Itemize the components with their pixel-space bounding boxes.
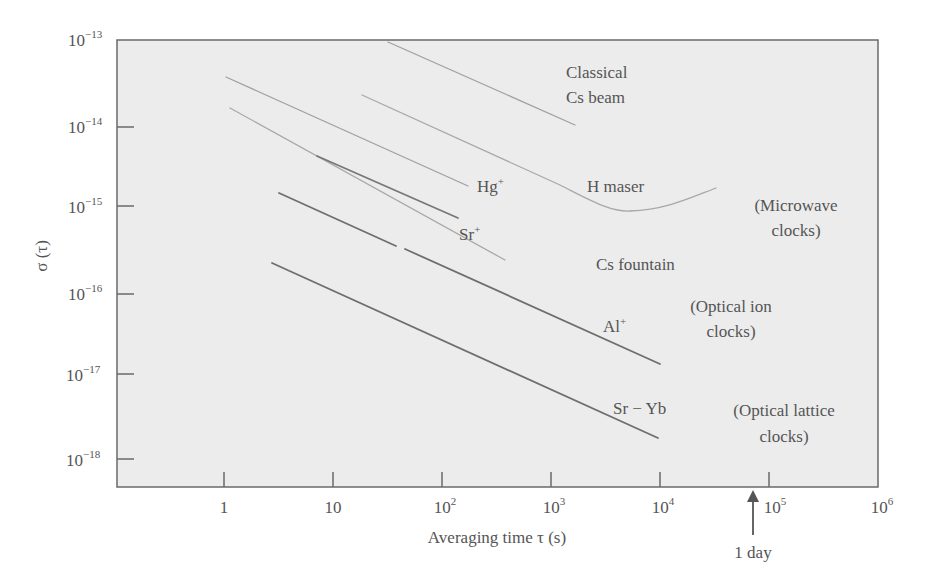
label-microwave-2: clocks) bbox=[771, 221, 820, 240]
y-tick-1e-15: 10−15 bbox=[68, 195, 103, 217]
x-tick-1e6: 106 bbox=[871, 495, 894, 517]
label-sr-yb: Sr − Yb bbox=[613, 399, 666, 418]
y-tick-1e-16: 10−16 bbox=[68, 282, 103, 304]
y-tick-1e-14: 10−14 bbox=[68, 115, 103, 137]
x-axis-tick-labels: 1 10 102 103 104 105 106 bbox=[220, 495, 894, 517]
x-tick-1e2: 102 bbox=[434, 495, 457, 517]
arrow-up-icon bbox=[747, 490, 759, 502]
y-tick-1e-13: 10−13 bbox=[68, 28, 103, 50]
label-optical-ion-2: clocks) bbox=[706, 322, 755, 341]
y-axis-tick-labels: 10−13 10−14 10−15 10−16 10−17 10−18 bbox=[66, 28, 103, 470]
x-tick-1: 1 bbox=[220, 498, 229, 517]
y-tick-1e-18: 10−18 bbox=[66, 448, 101, 470]
label-cs-beam: Cs beam bbox=[566, 88, 625, 107]
allan-deviation-chart: 10−13 10−14 10−15 10−16 10−17 10−18 σ (τ… bbox=[0, 0, 925, 584]
label-microwave-1: (Microwave bbox=[754, 196, 837, 215]
one-day-label: 1 day bbox=[734, 543, 772, 562]
label-optical-lattice-1: (Optical lattice bbox=[733, 401, 834, 420]
y-tick-1e-17: 10−17 bbox=[66, 363, 101, 385]
x-axis-title: Averaging time τ (s) bbox=[428, 528, 566, 547]
x-tick-1e3: 103 bbox=[543, 495, 566, 517]
label-h-maser: H maser bbox=[587, 177, 644, 196]
x-tick-1e5: 105 bbox=[764, 495, 787, 517]
y-axis-title: σ (τ) bbox=[32, 240, 51, 272]
x-tick-1e4: 104 bbox=[652, 495, 675, 517]
label-optical-lattice-2: clocks) bbox=[759, 427, 808, 446]
x-tick-10: 10 bbox=[325, 498, 342, 517]
label-classical: Classical bbox=[566, 63, 628, 82]
label-cs-fountain: Cs fountain bbox=[596, 255, 675, 274]
label-optical-ion-1: (Optical ion bbox=[690, 297, 772, 316]
